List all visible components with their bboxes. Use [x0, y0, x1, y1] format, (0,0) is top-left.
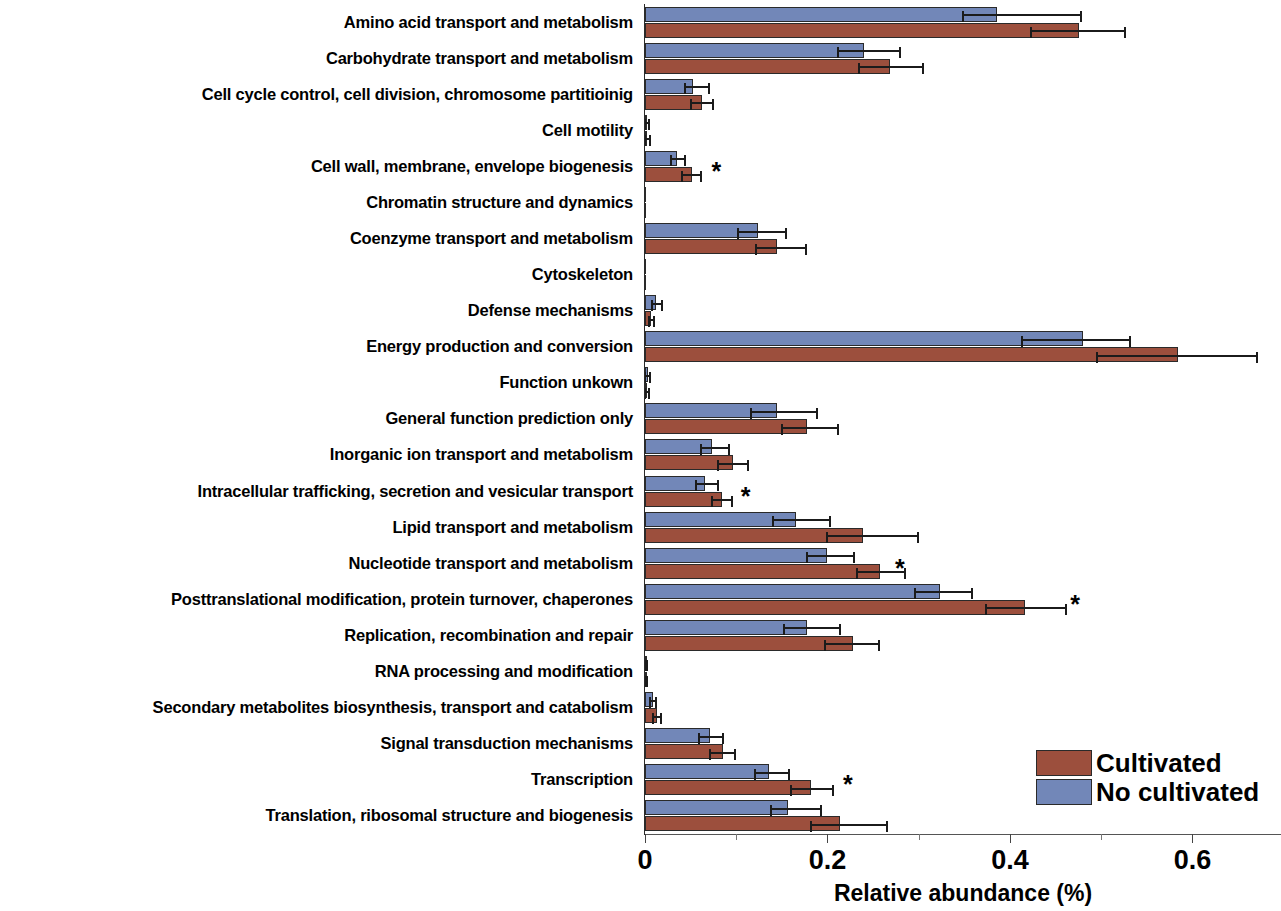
error-bar-cap-high [1124, 27, 1126, 38]
error-bar-cap-low [690, 99, 692, 110]
category-label: Lipid transport and metabolism [392, 519, 633, 536]
category-label: Secondary metabolites biosynthesis, tran… [153, 699, 633, 716]
significance-marker: * [712, 164, 722, 178]
error-bar-cap-low [684, 83, 686, 94]
error-bar-cap-low [755, 244, 757, 255]
category-label-row: Transcription [0, 762, 639, 798]
bar-cultivated [645, 564, 880, 579]
legend-label-cultivated: Cultivated [1096, 750, 1222, 776]
bar-cultivated [645, 275, 646, 290]
error-bar-cap-low [824, 640, 826, 651]
error-bar-cap-low [1021, 336, 1023, 347]
bar-group [645, 437, 1281, 473]
error-bar-cap-high [1129, 336, 1131, 347]
error-bar-cap-low [783, 624, 785, 635]
error-bar-cap-low [670, 155, 672, 166]
error-bar-cap-low [1030, 27, 1032, 38]
bar-cultivated [645, 636, 853, 651]
error-bar-cap-low [806, 552, 808, 563]
bar-group [645, 40, 1281, 76]
legend-swatch-cultivated [1036, 750, 1092, 776]
error-bar-cap-low [648, 316, 650, 327]
category-label: Cell cycle control, cell division, chrom… [202, 86, 633, 103]
category-label-row: Defense mechanisms [0, 293, 639, 329]
significance-marker: * [1070, 597, 1080, 611]
bar-no-cultivated [645, 548, 827, 563]
category-label: Signal transduction mechanisms [380, 735, 633, 752]
bar-group: * [645, 473, 1281, 509]
category-label: Inorganic ion transport and metabolism [330, 446, 633, 463]
category-label-row: Cell motility [0, 112, 639, 148]
error-bar [782, 427, 839, 429]
error-bar [645, 679, 647, 681]
error-bar [645, 138, 650, 140]
error-bar [710, 752, 736, 754]
bar-cultivated [645, 203, 646, 218]
chart-legend: Cultivated No cultivated [1036, 750, 1259, 808]
error-bar-cap-high [717, 480, 719, 491]
category-label-row: RNA processing and modification [0, 653, 639, 689]
error-bar-cap-high [1080, 11, 1082, 22]
plot-area: ***** [645, 4, 1281, 834]
x-axis-tick [827, 834, 828, 843]
error-bar [645, 122, 649, 124]
x-axis-tick-label: 0.6 [1174, 845, 1212, 876]
bar-no-cultivated [645, 259, 646, 274]
bar-group [645, 76, 1281, 112]
error-bar-cap-high [899, 47, 901, 58]
bar-group: * [645, 148, 1281, 184]
error-bar-cap-low [856, 568, 858, 579]
bar-no-cultivated [645, 764, 769, 779]
category-label: Cell motility [542, 122, 633, 139]
error-bar-cap-low [826, 532, 828, 543]
error-bar-cap-high [648, 388, 650, 399]
category-label: Chromatin structure and dynamics [366, 194, 633, 211]
error-bar [825, 643, 880, 645]
error-bar [718, 463, 748, 465]
error-bar [811, 824, 887, 826]
error-bar-cap-low [770, 805, 772, 816]
bar-group [645, 653, 1281, 689]
error-bar-cap-low [651, 300, 653, 311]
error-bar [712, 499, 732, 501]
bar-cultivated [645, 23, 1079, 38]
error-bar-cap-high [734, 749, 736, 760]
error-bar [645, 375, 650, 377]
error-bar [755, 772, 789, 774]
category-label-row: Translation, ribosomal structure and bio… [0, 798, 639, 834]
x-axis-tick-label: 0 [637, 845, 652, 876]
category-label: RNA processing and modification [375, 663, 633, 680]
error-bar-cap-low [790, 785, 792, 796]
category-label-row: Cell wall, membrane, envelope biogenesis [0, 148, 639, 184]
category-label: General function prediction only [385, 410, 633, 427]
category-label-row: Carbohydrate transport and metabolism [0, 40, 639, 76]
error-bar-cap-low [698, 733, 700, 744]
category-label: Cell wall, membrane, envelope biogenesis [311, 158, 633, 175]
error-bar-cap-low [781, 424, 783, 435]
error-bar-cap-high [653, 316, 655, 327]
error-bar-cap-low [1096, 352, 1098, 363]
error-bar [859, 66, 924, 68]
bar-group [645, 509, 1281, 545]
error-bar-cap-low [649, 697, 651, 708]
error-bar-cap-high [661, 300, 663, 311]
bar-no-cultivated [645, 43, 864, 58]
error-bar-cap-high [648, 119, 650, 130]
category-label: Posttranslational modification, protein … [171, 591, 633, 608]
error-bar-cap-high [788, 769, 790, 780]
error-bar [685, 86, 709, 88]
error-bar-cap-high [655, 697, 657, 708]
error-bar [915, 591, 972, 593]
error-bar-cap-low [772, 516, 774, 527]
error-bar [963, 14, 1082, 16]
category-label: Defense mechanisms [468, 302, 633, 319]
error-bar [838, 50, 899, 52]
category-label: Function unkown [499, 374, 633, 391]
bar-group [645, 329, 1281, 365]
relative-abundance-bar-chart: Amino acid transport and metabolismCarbo… [0, 0, 1281, 911]
error-bar [784, 627, 841, 629]
bar-group [645, 617, 1281, 653]
error-bar [645, 663, 647, 665]
bar-group [645, 257, 1281, 293]
category-label-row: Chromatin structure and dynamics [0, 184, 639, 220]
